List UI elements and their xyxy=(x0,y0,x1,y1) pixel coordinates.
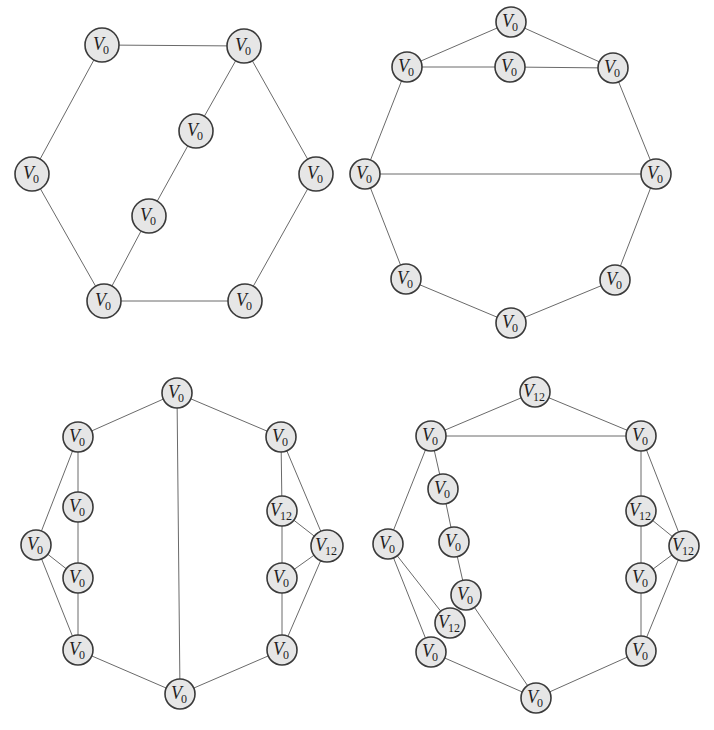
vertex-node: V12 xyxy=(311,530,343,562)
edge xyxy=(535,392,641,436)
edge xyxy=(281,437,327,546)
vertex-node: V0 xyxy=(439,527,469,557)
vertex-node: V12 xyxy=(626,496,656,526)
vertex-node: V0 xyxy=(21,530,51,560)
edge xyxy=(536,651,641,698)
vertex-node: V0 xyxy=(63,422,93,452)
vertex-node: V0 xyxy=(496,308,526,338)
vertex-node: V0 xyxy=(227,29,261,63)
vertex-node: V0 xyxy=(521,683,551,713)
vertex-node: V12 xyxy=(267,496,297,526)
vertex-node: V0 xyxy=(85,28,119,62)
edge xyxy=(245,174,316,301)
vertex-node: V0 xyxy=(641,159,671,189)
vertex-node: V0 xyxy=(598,53,628,83)
edge xyxy=(180,650,282,694)
edge xyxy=(32,174,104,301)
edge xyxy=(431,392,535,436)
edge xyxy=(406,279,511,323)
vertex-node: V0 xyxy=(373,529,403,559)
vertex-node: V0 xyxy=(392,52,422,82)
graph-top-left: V0V0V0V0V0V0V0V0 xyxy=(15,28,333,318)
edge xyxy=(388,436,431,544)
vertex-node: V12 xyxy=(435,608,465,638)
edge xyxy=(511,22,613,68)
vertex-node: V0 xyxy=(15,157,49,191)
edge xyxy=(78,650,180,694)
vertex-node: V0 xyxy=(63,492,93,522)
edge xyxy=(365,174,406,279)
vertex-node: V0 xyxy=(162,378,192,408)
edge xyxy=(365,67,407,174)
edge xyxy=(511,280,615,323)
edge xyxy=(78,393,177,437)
edge xyxy=(177,393,281,437)
vertex-node: V0 xyxy=(267,635,297,665)
vertex-node: V0 xyxy=(416,421,446,451)
graph-top-right: V0V0V0V0V0V0V0V0V0 xyxy=(350,7,671,338)
edge xyxy=(102,45,244,46)
edge xyxy=(407,22,511,67)
edge xyxy=(244,46,316,174)
edge xyxy=(613,68,656,174)
vertex-node: V0 xyxy=(626,421,656,451)
vertex-node: V0 xyxy=(179,114,213,148)
edges xyxy=(32,45,316,301)
vertex-node: V0 xyxy=(626,563,656,593)
graph-bottom-left: V0V0V0V0V12V0V12V0V0V0V0V0 xyxy=(21,378,343,709)
vertex-node: V12 xyxy=(520,377,550,407)
graph-bottom-right: V12V0V0V0V12V0V0V12V0V0V12V0V0V0 xyxy=(373,377,699,713)
vertex-node: V0 xyxy=(600,265,630,295)
vertex-node: V0 xyxy=(228,284,262,318)
vertex-node: V0 xyxy=(87,284,121,318)
vertex-node: V0 xyxy=(132,199,166,233)
edge xyxy=(36,545,78,650)
edge xyxy=(615,174,656,280)
vertex-node: V0 xyxy=(267,563,297,593)
vertex-node: V0 xyxy=(391,264,421,294)
edge xyxy=(32,45,102,174)
vertex-node: V0 xyxy=(299,157,333,191)
edge xyxy=(388,544,431,652)
vertex-node: V0 xyxy=(266,422,296,452)
edge xyxy=(641,436,684,546)
vertex-node: V0 xyxy=(63,563,93,593)
vertex-node: V0 xyxy=(165,679,195,709)
vertex-node: V0 xyxy=(495,52,525,82)
edge xyxy=(36,437,78,545)
vertex-node: V0 xyxy=(416,637,446,667)
vertex-node: V0 xyxy=(626,636,656,666)
graph-figure: V0V0V0V0V0V0V0V0V0V0V0V0V0V0V0V0V0V0V0V0… xyxy=(0,0,714,730)
edge xyxy=(177,393,180,694)
vertex-node: V0 xyxy=(350,159,380,189)
graph-canvas: V0V0V0V0V0V0V0V0V0V0V0V0V0V0V0V0V0V0V0V0… xyxy=(0,0,714,730)
vertex-node: V0 xyxy=(451,580,481,610)
vertex-node: V0 xyxy=(63,635,93,665)
vertex-node: V0 xyxy=(428,474,458,504)
vertex-node: V12 xyxy=(669,531,699,561)
vertex-node: V0 xyxy=(496,7,526,37)
